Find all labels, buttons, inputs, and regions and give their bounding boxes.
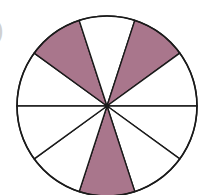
center-point bbox=[105, 104, 109, 108]
fraction-circle-diagram bbox=[0, 0, 202, 195]
